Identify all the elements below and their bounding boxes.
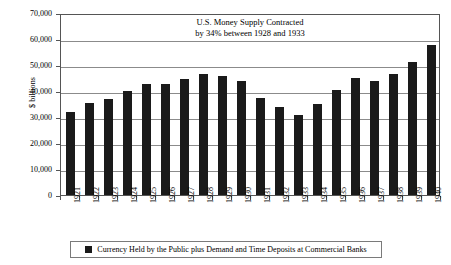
gridline bbox=[61, 67, 439, 68]
y-tick-label: 20,000 bbox=[4, 140, 52, 148]
x-label-1937: 1937 bbox=[377, 187, 386, 203]
y-tick-label: 0 bbox=[4, 192, 52, 200]
gridline bbox=[61, 171, 439, 172]
plot-inner bbox=[61, 15, 439, 195]
bar-1933 bbox=[294, 115, 303, 195]
bar-1923 bbox=[104, 99, 113, 195]
x-label-1931: 1931 bbox=[263, 187, 272, 203]
x-label-1927: 1927 bbox=[187, 187, 196, 203]
y-tick-label: 40,000 bbox=[4, 88, 52, 96]
chart-title-line-1: U.S. Money Supply Contracted bbox=[130, 17, 370, 28]
chart-title: U.S. Money Supply Contracted by 34% betw… bbox=[130, 17, 370, 39]
bar-1937 bbox=[370, 81, 379, 195]
x-label-1936: 1936 bbox=[358, 187, 367, 203]
bar-1921 bbox=[66, 112, 75, 195]
x-label-1930: 1930 bbox=[244, 187, 253, 203]
gridline bbox=[61, 93, 439, 94]
bar-1938 bbox=[389, 74, 398, 195]
x-label-1928: 1928 bbox=[206, 187, 215, 203]
x-tick-mark bbox=[60, 196, 61, 200]
x-label-1939: 1939 bbox=[415, 187, 424, 203]
bar-1939 bbox=[408, 62, 417, 195]
chart-title-line-2: by 34% between 1928 and 1933 bbox=[130, 28, 370, 39]
y-tick-label: 50,000 bbox=[4, 62, 52, 70]
x-label-1922: 1922 bbox=[92, 187, 101, 203]
y-tick-label: 30,000 bbox=[4, 114, 52, 122]
x-label-1940: 1940 bbox=[434, 187, 443, 203]
bar-1927 bbox=[180, 79, 189, 195]
legend-swatch-icon bbox=[85, 246, 92, 253]
bar-1930 bbox=[237, 81, 246, 195]
x-label-1924: 1924 bbox=[130, 187, 139, 203]
x-label-1921: 1921 bbox=[73, 187, 82, 203]
bar-1932 bbox=[275, 107, 284, 195]
gridline bbox=[61, 145, 439, 146]
x-label-1926: 1926 bbox=[168, 187, 177, 203]
legend: Currency Held by the Public plus Demand … bbox=[70, 241, 382, 258]
x-label-1932: 1932 bbox=[282, 187, 291, 203]
x-label-1938: 1938 bbox=[396, 187, 405, 203]
bar-1934 bbox=[313, 104, 322, 195]
x-label-1935: 1935 bbox=[339, 187, 348, 203]
bar-1931 bbox=[256, 98, 265, 195]
gridline bbox=[61, 41, 439, 42]
legend-label: Currency Held by the Public plus Demand … bbox=[97, 245, 366, 254]
y-tick-label: 70,000 bbox=[4, 10, 52, 18]
gridline bbox=[61, 119, 439, 120]
bar-1924 bbox=[123, 91, 132, 195]
bar-1926 bbox=[161, 84, 170, 195]
bar-1922 bbox=[85, 103, 94, 195]
y-tick-label: 10,000 bbox=[4, 166, 52, 174]
bar-1935 bbox=[332, 90, 341, 195]
x-label-1923: 1923 bbox=[111, 187, 120, 203]
x-label-1933: 1933 bbox=[301, 187, 310, 203]
bar-1925 bbox=[142, 84, 151, 195]
bar-1936 bbox=[351, 78, 360, 195]
money-supply-bar-chart: $ billions 70,00060,00050,00040,00030,00… bbox=[0, 0, 451, 265]
bar-1928 bbox=[199, 74, 208, 195]
plot-area bbox=[60, 14, 440, 196]
bar-1929 bbox=[218, 76, 227, 195]
bar-1940 bbox=[427, 45, 436, 195]
x-label-1925: 1925 bbox=[149, 187, 158, 203]
y-tick-label: 60,000 bbox=[4, 36, 52, 44]
x-label-1929: 1929 bbox=[225, 187, 234, 203]
x-label-1934: 1934 bbox=[320, 187, 329, 203]
